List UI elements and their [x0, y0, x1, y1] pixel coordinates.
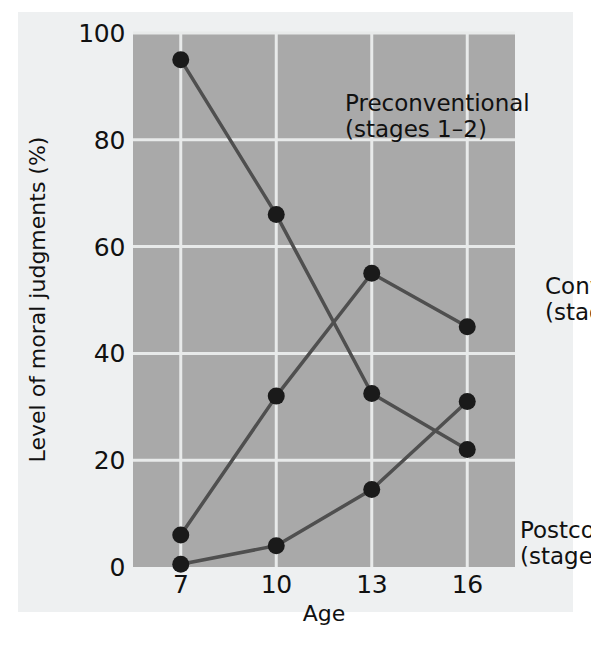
- chart-figure: Level of moral judgments (%) 02040608010…: [0, 0, 591, 645]
- data-point-marker: [172, 526, 189, 543]
- series-label-preconventional-line2: (stages 1–2): [345, 116, 530, 142]
- x-axis-tick-label: 10: [236, 572, 316, 597]
- series-label-preconventional-line1: Preconventional: [345, 90, 530, 116]
- data-point-marker: [268, 537, 285, 554]
- series-line-1: [181, 273, 468, 535]
- y-axis-tick-label: 20: [5, 448, 125, 473]
- series-label-postconventional-line1: Postconventional: [520, 517, 591, 543]
- series-label-postconventional: Postconventional (stages 5–6): [520, 517, 591, 569]
- data-point-marker: [459, 318, 476, 335]
- y-axis-tick-label: 80: [5, 127, 125, 152]
- y-axis-tick-label: 60: [5, 234, 125, 259]
- data-point-marker: [268, 206, 285, 223]
- x-axis-tick-label: 16: [427, 572, 507, 597]
- y-axis-tick-labels: 020406080100: [0, 33, 125, 567]
- x-axis-tick-label: 7: [141, 572, 221, 597]
- x-axis-tick-label: 13: [332, 572, 412, 597]
- data-point-marker: [172, 51, 189, 68]
- series-label-postconventional-line2: (stages 5–6): [520, 543, 591, 569]
- series-label-preconventional: Preconventional (stages 1–2): [345, 90, 530, 142]
- y-axis-tick-label: 100: [5, 21, 125, 46]
- series-label-conventional-line2: (stages 3–4): [545, 299, 591, 325]
- plot-area: Preconventional (stages 1–2) Conventiona…: [133, 33, 515, 567]
- data-point-marker: [363, 265, 380, 282]
- data-point-marker: [459, 441, 476, 458]
- data-point-marker: [268, 388, 285, 405]
- data-point-marker: [459, 393, 476, 410]
- x-axis-title: Age: [133, 601, 515, 626]
- series-label-conventional: Conventional (stages 3–4): [545, 273, 591, 325]
- data-point-marker: [363, 481, 380, 498]
- y-axis-tick-label: 40: [5, 341, 125, 366]
- data-point-marker: [363, 385, 380, 402]
- y-axis-tick-label: 0: [5, 555, 125, 580]
- series-label-conventional-line1: Conventional: [545, 273, 591, 299]
